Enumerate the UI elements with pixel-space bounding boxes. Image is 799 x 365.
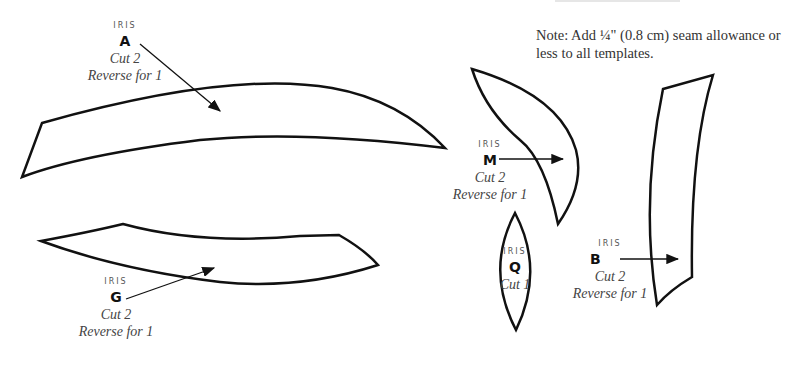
template-a-label: IRIS A Cut 2 Reverse for 1	[75, 20, 175, 84]
template-a-cut: Cut 2	[75, 50, 175, 67]
template-g-shape	[41, 224, 378, 284]
template-a-reverse: Reverse for 1	[75, 67, 175, 84]
template-m-reverse: Reverse for 1	[440, 186, 540, 203]
template-g-id: G	[66, 288, 166, 306]
template-m-cut: Cut 2	[440, 169, 540, 186]
template-b-reverse: Reverse for 1	[560, 285, 660, 302]
seam-allowance-note: Note: Add ¼" (0.8 cm) seam allowance or …	[536, 26, 796, 62]
template-g-reverse: Reverse for 1	[66, 323, 166, 340]
template-g-label: IRIS G Cut 2 Reverse for 1	[66, 276, 166, 340]
template-m-label: IRIS M Cut 2 Reverse for 1	[440, 139, 540, 203]
template-q-source: IRIS	[490, 246, 540, 258]
template-a-source: IRIS	[75, 20, 175, 32]
template-m-id: M	[440, 151, 540, 169]
template-b-label: IRIS B Cut 2 Reverse for 1	[560, 238, 660, 302]
template-g-source: IRIS	[66, 276, 166, 288]
template-g-cut: Cut 2	[66, 306, 166, 323]
template-a-id: A	[75, 32, 175, 50]
template-q-id: Q	[490, 258, 540, 276]
template-b-cut: Cut 2	[560, 268, 660, 285]
template-m-source: IRIS	[440, 139, 540, 151]
template-a-shape	[22, 83, 445, 177]
template-q-label: IRIS Q Cut 1	[490, 246, 540, 293]
template-b-id: B	[560, 250, 660, 268]
template-b-source: IRIS	[560, 238, 660, 250]
template-q-cut: Cut 1	[490, 276, 540, 293]
